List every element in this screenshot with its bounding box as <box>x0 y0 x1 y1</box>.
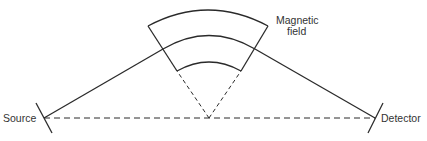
source-label: Source <box>3 112 36 124</box>
detector-label: Detector <box>381 112 421 124</box>
ion-path-arc <box>163 36 255 50</box>
sector-left-edge <box>148 26 177 71</box>
ion-path-detector-segment <box>255 49 375 118</box>
mass-spectrometer-diagram: Source Detector Magnetic field <box>0 0 427 141</box>
magnetic-field-label-line2: field <box>287 25 306 37</box>
sector-inner-arc <box>177 62 241 71</box>
ion-path-source-segment <box>44 49 163 118</box>
sector-right-edge <box>241 26 268 71</box>
radius-left-dashed <box>177 71 209 118</box>
sector-outer-arc <box>148 10 268 26</box>
radius-right-dashed <box>209 71 241 118</box>
